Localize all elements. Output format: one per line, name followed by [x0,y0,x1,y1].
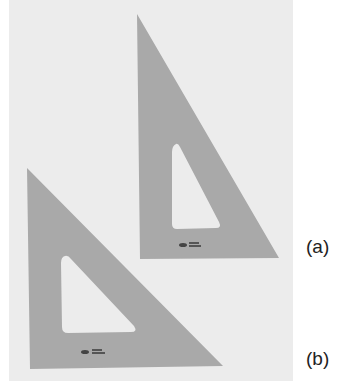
triangle-b-body [27,168,223,369]
triangles-figure [0,0,342,387]
triangle-b [27,168,223,369]
label-a: (a) [306,236,329,258]
triangle-a [137,14,279,259]
label-b: (b) [306,348,329,370]
triangle-a-body [137,14,279,259]
